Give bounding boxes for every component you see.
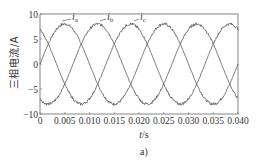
- chart-svg: iaibic00.0050.0100.0150.0200.0250.0300.0…: [0, 0, 259, 165]
- x-tick-label: 0.035: [203, 116, 225, 126]
- figure-caption: a): [140, 146, 148, 158]
- axes: iaibic00.0050.0100.0150.0200.0250.0300.0…: [23, 10, 249, 159]
- y-tick-label: 5: [33, 35, 38, 45]
- y-axis-label: 三相电流/A: [6, 28, 21, 98]
- x-axis-label: t/s: [139, 129, 149, 140]
- x-tick-label: 0.020: [128, 116, 150, 126]
- plot-area: [40, 23, 238, 106]
- x-tick-label: 0: [38, 116, 43, 126]
- series-label-ia: ia: [72, 11, 79, 24]
- y-tick-label: −10: [23, 110, 38, 120]
- y-tick-label: 10: [29, 10, 39, 20]
- y-tick-label: −5: [28, 85, 38, 95]
- x-tick-label: 0.015: [104, 116, 126, 126]
- x-tick-label: 0.025: [153, 116, 175, 126]
- x-tick-label: 0.005: [54, 116, 76, 126]
- x-tick-label: 0.040: [227, 116, 249, 126]
- x-tick-label: 0.030: [178, 116, 200, 126]
- y-tick-label: 0: [33, 60, 38, 70]
- series-label-ic: ic: [140, 11, 146, 24]
- series-label-ib: ib: [107, 11, 114, 24]
- x-tick-label: 0.010: [79, 116, 101, 126]
